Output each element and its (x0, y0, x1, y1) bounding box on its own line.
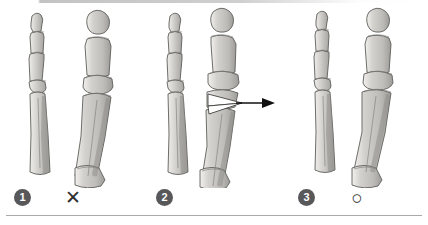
step-badge-3: 3 (298, 189, 315, 206)
step-badge-1: 1 (14, 189, 31, 206)
bone-illustration-3 (286, 2, 428, 188)
panel-1: 1 ✕ (2, 0, 144, 214)
caption-row-3: 3 ○ (286, 186, 428, 214)
bone-illustration-1 (2, 2, 144, 188)
bone-illustration-2 (144, 2, 286, 188)
step-badge-2: 2 (156, 189, 173, 206)
verdict-marker-1: ✕ (60, 186, 86, 210)
figure-root: 1 ✕ (0, 0, 428, 225)
panel-3: 3 ○ (286, 0, 428, 214)
panel-2: 2 (144, 0, 286, 214)
bottom-divider-rule (6, 215, 422, 216)
caption-row-2: 2 (144, 186, 286, 214)
correction-arrow (236, 98, 275, 108)
caption-row-1: 1 ✕ (2, 186, 144, 214)
verdict-marker-3: ○ (344, 186, 370, 210)
